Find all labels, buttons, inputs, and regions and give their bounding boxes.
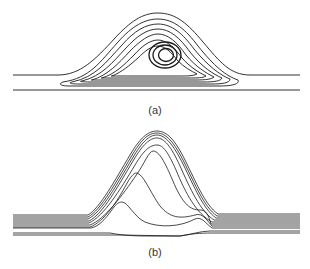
panel-a-streamlines (13, 13, 300, 90)
streamline (13, 133, 300, 217)
panel-b-label: (b) (135, 246, 175, 258)
streamline (13, 135, 300, 219)
closed-streamline (70, 24, 230, 84)
streamline (13, 138, 300, 221)
streamline (13, 145, 300, 223)
vortex-ring (159, 49, 174, 62)
closed-streamline (81, 29, 222, 82)
panel-a-label: (a) (135, 104, 175, 116)
panel-b-streamlines (13, 131, 300, 236)
streamline (13, 233, 300, 236)
vortex-ring (149, 42, 181, 68)
streamline-figure (0, 0, 310, 269)
streamline (13, 131, 300, 215)
